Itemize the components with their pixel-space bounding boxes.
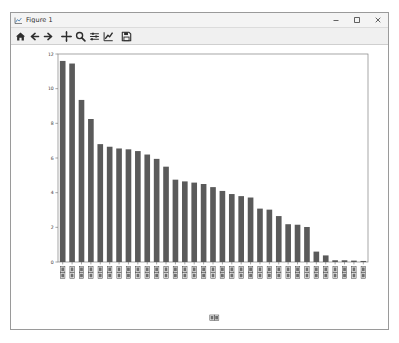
bar[interactable] [163, 167, 169, 262]
x-tick-label [277, 267, 281, 279]
bar[interactable] [257, 209, 263, 262]
bar[interactable] [201, 184, 207, 262]
bar[interactable] [126, 149, 132, 262]
screenshot-root: Figure 1 [0, 0, 399, 343]
x-tick-label [173, 267, 177, 279]
bar[interactable] [229, 194, 235, 262]
x-tick-label [117, 267, 121, 279]
minimize-button[interactable] [325, 13, 346, 28]
x-tick-label [98, 267, 102, 279]
bar[interactable] [60, 61, 66, 262]
y-tick-label: 2 [51, 225, 54, 230]
x-tick-label [79, 267, 83, 279]
x-tick-label [305, 267, 309, 279]
bar-chart-figure: 024681012 [11, 45, 388, 329]
bar[interactable] [295, 225, 301, 262]
bar[interactable] [342, 260, 348, 262]
bar[interactable] [107, 147, 113, 262]
y-tick-label: 4 [51, 190, 54, 195]
bar[interactable] [154, 159, 160, 262]
window-title-text: Figure 1 [26, 17, 325, 24]
matplotlib-figure-icon [14, 16, 23, 25]
x-tick-label [201, 267, 205, 279]
x-tick-label [352, 267, 356, 279]
x-tick-label [267, 267, 271, 279]
bar[interactable] [248, 198, 254, 262]
figure-canvas[interactable]: 024681012 [11, 45, 388, 329]
bar[interactable] [88, 119, 94, 262]
navigation-toolbar [11, 28, 388, 45]
close-button[interactable] [367, 13, 388, 28]
y-tick-label: 12 [48, 52, 54, 57]
bar-chart-svg: 024681012 [11, 45, 388, 329]
x-tick-label [164, 267, 168, 279]
x-tick-label [342, 267, 346, 279]
bar[interactable] [267, 210, 273, 262]
x-tick-label [136, 267, 140, 279]
bar[interactable] [182, 181, 188, 262]
x-tick-label [183, 267, 187, 279]
home-icon[interactable] [14, 29, 27, 44]
figure-window: Figure 1 [10, 12, 389, 330]
x-tick-label [248, 267, 252, 279]
save-disk-icon[interactable] [120, 29, 133, 44]
bar[interactable] [323, 255, 329, 262]
bar[interactable] [97, 144, 103, 262]
edit-axis-curve-icon[interactable] [102, 29, 115, 44]
bar[interactable] [173, 180, 179, 262]
bar[interactable] [69, 64, 75, 262]
maximize-button[interactable] [346, 13, 367, 28]
window-controls [325, 13, 388, 27]
bar[interactable] [191, 183, 197, 262]
x-tick-label [70, 267, 74, 279]
x-tick-label [61, 267, 65, 279]
bar[interactable] [351, 261, 357, 262]
bar[interactable] [285, 224, 291, 262]
y-tick-label: 8 [51, 121, 54, 126]
x-tick-label [154, 267, 158, 279]
y-tick-label: 10 [48, 86, 54, 91]
forward-arrow-icon[interactable] [42, 29, 55, 44]
x-tick-label [295, 267, 299, 279]
x-tick-label [126, 267, 130, 279]
x-tick-label [286, 267, 290, 279]
configure-subplots-icon[interactable] [88, 29, 101, 44]
bar[interactable] [135, 151, 141, 262]
window-title-bar: Figure 1 [11, 13, 388, 28]
x-tick-label [145, 267, 149, 279]
back-arrow-icon[interactable] [28, 29, 41, 44]
bar[interactable] [210, 187, 216, 262]
x-tick-label [361, 267, 365, 279]
bar[interactable] [314, 252, 320, 262]
x-tick-label [89, 267, 93, 279]
bar[interactable] [238, 196, 244, 262]
bar[interactable] [332, 260, 338, 262]
x-tick-label [192, 267, 196, 279]
x-tick-label [314, 267, 318, 279]
x-tick-label [239, 267, 243, 279]
bar[interactable] [276, 216, 282, 262]
x-tick-label [107, 267, 111, 279]
x-tick-label [220, 267, 224, 279]
bar[interactable] [360, 261, 366, 262]
y-tick-label: 6 [51, 156, 54, 161]
pan-move-icon[interactable] [60, 29, 73, 44]
y-tick-label: 0 [51, 260, 54, 265]
x-tick-label [324, 267, 328, 279]
bar[interactable] [144, 155, 150, 262]
x-tick-label [258, 267, 262, 279]
bar[interactable] [79, 100, 85, 262]
bar[interactable] [304, 227, 310, 262]
x-tick-label [230, 267, 234, 279]
x-tick-label [211, 267, 215, 279]
bar[interactable] [116, 148, 122, 262]
bar[interactable] [220, 191, 226, 262]
zoom-magnifier-icon[interactable] [74, 29, 87, 44]
x-tick-label [333, 267, 337, 279]
x-axis-label [210, 315, 219, 320]
